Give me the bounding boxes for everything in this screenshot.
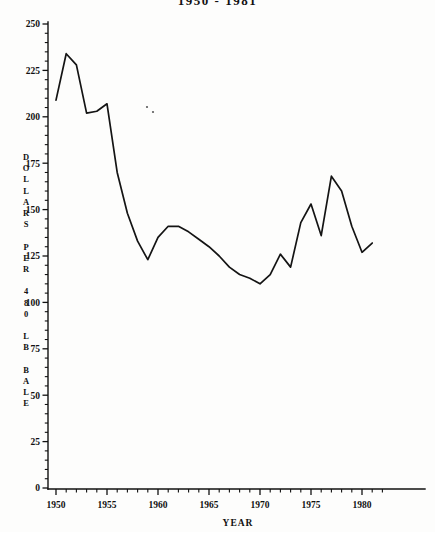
x-tick-label: 1965 <box>200 500 219 510</box>
scan-artifact-specks <box>146 106 154 113</box>
y-axis-title-letter: O <box>23 163 30 173</box>
y-axis-title-letter: D <box>23 152 29 162</box>
y-axis-title-letter: P <box>23 242 28 252</box>
y-axis: 0255075100125150175200225250 <box>26 19 48 493</box>
y-axis-title-letter: E <box>23 398 29 408</box>
y-tick-label: 200 <box>26 112 41 122</box>
data-series <box>56 54 372 284</box>
x-tick-label: 1950 <box>47 500 66 510</box>
y-axis-title-letter: A <box>23 197 30 207</box>
y-axis-title-letter: L <box>23 387 29 397</box>
y-axis-title: DOLLARSPER480LBBALE <box>23 152 30 408</box>
x-axis-title: YEAR <box>223 518 254 528</box>
y-axis-title-letter: S <box>24 219 29 229</box>
chart-figure: 1950 - 1981 0255075100125150175200225250… <box>0 0 435 540</box>
page-bottom-edge <box>0 532 435 540</box>
x-tick-label: 1960 <box>149 500 168 510</box>
y-tick-label: 0 <box>35 483 40 493</box>
y-axis-title-letter: B <box>23 342 29 352</box>
y-tick-label: 75 <box>31 344 41 354</box>
y-axis-title-letter: B <box>23 365 29 375</box>
y-axis-title-letter: 0 <box>24 309 28 319</box>
y-axis-title-letter: A <box>23 376 30 386</box>
y-axis-title-letter: 8 <box>24 298 28 308</box>
x-axis-title-text: YEAR <box>223 518 254 528</box>
y-tick-label: 25 <box>31 437 41 447</box>
price-line <box>56 54 372 284</box>
x-tick-label: 1980 <box>353 500 372 510</box>
scan-speck <box>152 111 154 113</box>
y-axis-title-letter: R <box>23 264 30 274</box>
x-tick-label: 1955 <box>98 500 117 510</box>
y-tick-label: 50 <box>31 391 41 401</box>
y-tick-label: 250 <box>26 19 41 29</box>
y-axis-title-letter: 4 <box>24 286 29 296</box>
y-axis-title-letter: L <box>23 174 29 184</box>
y-axis-title-letter: L <box>23 186 29 196</box>
y-axis-title-letter: L <box>23 331 29 341</box>
x-tick-label: 1975 <box>302 500 321 510</box>
x-axis: 1950195519601965197019751980 <box>47 489 426 510</box>
y-axis-title-letter: R <box>23 208 30 218</box>
scan-speck <box>146 106 148 108</box>
y-axis-title-letter: E <box>23 253 29 263</box>
line-chart-canvas: 0255075100125150175200225250 19501955196… <box>0 0 435 540</box>
x-tick-label: 1970 <box>251 500 270 510</box>
y-tick-label: 225 <box>26 66 41 76</box>
